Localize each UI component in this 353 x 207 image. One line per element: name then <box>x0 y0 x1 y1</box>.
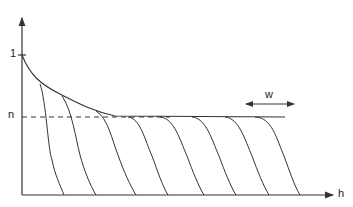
curve-3 <box>96 111 136 195</box>
curve-8 <box>255 117 300 195</box>
y-tick-label-1: 1 <box>10 47 16 59</box>
envelope-curve <box>22 55 285 117</box>
y-tick-label-n: n <box>8 108 14 120</box>
curve-5 <box>160 117 204 195</box>
curve-2 <box>62 96 96 195</box>
diagram: 1 n h w <box>0 0 353 207</box>
diagram-canvas <box>0 0 353 207</box>
curve-7 <box>225 117 269 195</box>
curve-1 <box>40 84 64 195</box>
curve-4 <box>128 117 168 195</box>
x-axis-label: h <box>338 187 344 199</box>
width-label: w <box>265 88 273 100</box>
